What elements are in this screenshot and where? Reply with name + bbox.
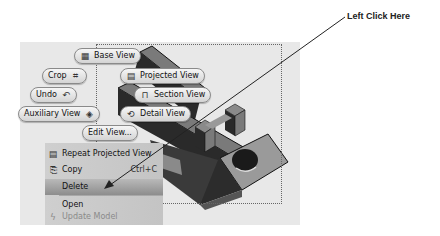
leader-arrow bbox=[0, 0, 440, 236]
callout-label: Left Click Here bbox=[347, 11, 410, 21]
